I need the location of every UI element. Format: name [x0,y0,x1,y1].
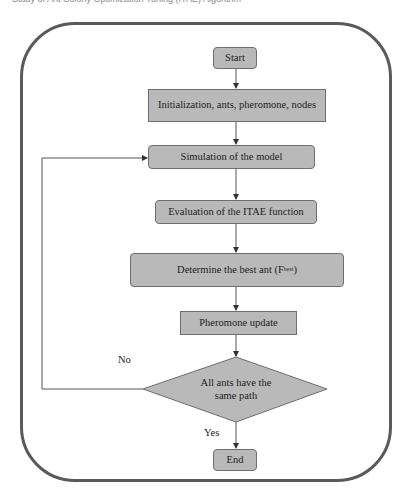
end-node: End [213,449,257,471]
determine-text: Determine the best ant (F [177,264,284,277]
pheromone-node: Pheromone update [180,311,297,335]
evaluation-node: Evaluation of the ITAE function [155,200,317,224]
start-node: Start [213,47,257,69]
determine-best-node: Determine the best ant (Fbest) [130,253,344,287]
simulation-node: Simulation of the model [148,145,315,169]
decision-line-1: All ants have the [176,376,296,389]
determine-subscript: best [284,266,294,273]
decision-text: All ants have the same path [176,376,296,402]
init-node: Initialization, ants, pheromone, nodes [148,89,326,122]
decision-line-2: same path [176,389,296,402]
connector-lines [0,0,413,501]
no-label: No [118,354,131,365]
yes-label: Yes [204,427,219,438]
determine-close: ) [293,264,297,277]
